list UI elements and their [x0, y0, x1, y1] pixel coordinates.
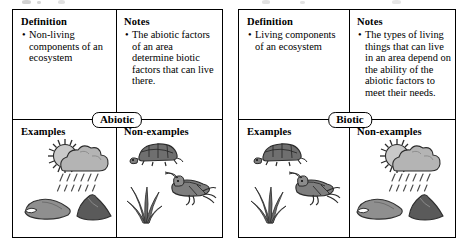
list-item-text: The types of living things that can live…	[365, 29, 451, 98]
abiotic-definition-list: • Non-living components of an ecosystem	[21, 29, 111, 64]
biotic-notes-list: • The types of living things that can li…	[357, 29, 452, 99]
list-item: • The types of living things that can li…	[357, 29, 452, 99]
biotic-notes-cell: Notes • The types of living things that …	[350, 10, 454, 119]
biotic-definition-list: • Living components of an ecosystem	[247, 29, 345, 52]
bullet-glyph: •	[125, 29, 129, 41]
grasshopper-icon	[159, 170, 217, 206]
biotic-center-label: Biotic	[328, 112, 372, 128]
grasshopper-icon	[283, 170, 341, 206]
abiotic-center-label: Abiotic	[92, 112, 142, 128]
list-item: • Non-living components of an ecosystem	[21, 29, 111, 64]
abiotic-definition-heading: Definition	[21, 16, 111, 28]
biotic-examples-heading: Examples	[247, 126, 345, 138]
bullet-glyph: •	[248, 29, 252, 41]
biotic-notes-heading: Notes	[357, 16, 452, 28]
list-item-text: The abiotic factors of an area determine…	[132, 29, 214, 86]
abiotic-definition-cell: Definition • Non-living components of an…	[13, 10, 116, 119]
rock-icon	[407, 189, 445, 220]
bullet-glyph: •	[358, 29, 362, 41]
abiotic-notes-list: • The abiotic factors of an area determi…	[124, 29, 217, 87]
turtle-icon	[253, 140, 309, 166]
turtle-icon	[129, 140, 185, 166]
abiotic-notes-cell: Notes • The abiotic factors of an area d…	[117, 10, 221, 119]
rock-icon	[75, 189, 113, 220]
biotic-definition-heading: Definition	[247, 16, 345, 28]
list-item-text: Living components of an ecosystem	[255, 29, 336, 52]
bullet-glyph: •	[22, 29, 26, 41]
biotic-examples-cell: Examples	[239, 120, 349, 236]
biotic-definition-cell: Definition • Living components of an eco…	[239, 10, 349, 119]
abiotic-notes-heading: Notes	[124, 16, 217, 28]
biotic-non-examples-cell: Non-examples	[350, 120, 454, 236]
list-item: • The abiotic factors of an area determi…	[124, 29, 217, 87]
abiotic-non-examples-heading: Non-examples	[124, 126, 217, 138]
rock-icon	[354, 194, 404, 220]
list-item-text: Non-living components of an ecosystem	[29, 29, 103, 63]
worksheet-page: Definition • Non-living components of an…	[0, 0, 468, 246]
clipped-text-artifacts	[0, 0, 468, 7]
rock-icon	[22, 194, 72, 220]
abiotic-non-examples-cell: Non-examples	[117, 120, 221, 236]
list-item: • Living components of an ecosystem	[247, 29, 345, 52]
abiotic-examples-cell: Examples	[13, 120, 116, 236]
